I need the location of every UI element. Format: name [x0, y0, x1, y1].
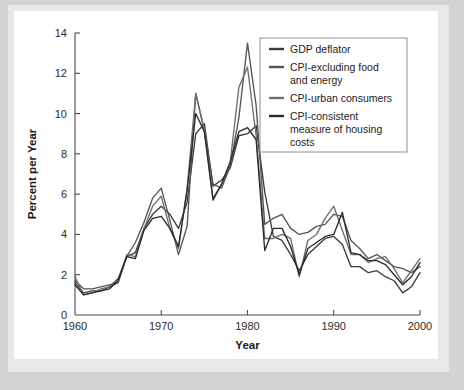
legend-label-0[interactable]: GDP deflator: [290, 43, 351, 55]
line-chart: 0246810121419601970198019902000YearPerce…: [14, 11, 438, 359]
legend-label-2[interactable]: CPI-urban consumers: [290, 92, 392, 104]
x-tick-label: 1970: [149, 320, 173, 332]
x-tick-label: 1990: [322, 320, 346, 332]
x-tick-label: 2000: [408, 320, 432, 332]
figure-root: 0246810121419601970198019902000YearPerce…: [0, 0, 464, 390]
y-tick-label: 2: [61, 269, 67, 281]
legend-label-3[interactable]: measure of housing: [290, 123, 382, 135]
y-tick-label: 12: [55, 67, 67, 79]
y-tick-label: 6: [61, 188, 67, 200]
legend-label-1[interactable]: and energy: [290, 74, 343, 86]
legend-label-3[interactable]: costs: [290, 136, 315, 148]
y-axis-title: Percent per Year: [26, 128, 38, 219]
legend-label-1[interactable]: CPI-excluding food: [290, 61, 379, 73]
x-tick-label: 1980: [235, 320, 259, 332]
x-tick-label: 1960: [63, 320, 87, 332]
y-tick-label: 4: [61, 228, 67, 240]
y-tick-label: 8: [61, 148, 67, 160]
y-tick-label: 10: [55, 108, 67, 120]
x-axis-title: Year: [235, 339, 260, 351]
legend-layer: GDP deflatorCPI-excluding foodand energy…: [260, 38, 407, 152]
legend-label-3[interactable]: CPI-consistent: [290, 110, 358, 122]
y-tick-label: 14: [55, 27, 67, 39]
